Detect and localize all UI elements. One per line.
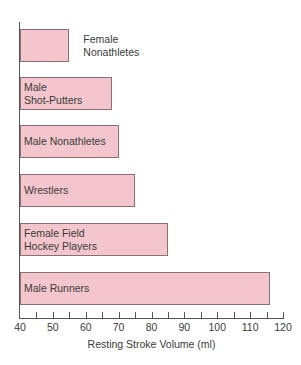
x-tick-label: 50 [41, 321, 65, 333]
x-tick [184, 312, 185, 318]
stroke-volume-bar-chart: Female NonathletesMale Shot-PuttersMale … [0, 0, 301, 365]
x-tick-label: 70 [107, 321, 131, 333]
x-axis-line [19, 318, 284, 319]
x-tick-label: 80 [140, 321, 164, 333]
bar-label: Male Runners [24, 282, 89, 295]
x-tick [119, 312, 120, 318]
x-tick-label: 40 [8, 321, 32, 333]
x-tick [86, 312, 87, 318]
x-tick [53, 312, 54, 318]
x-tick [69, 312, 70, 318]
x-tick [168, 312, 169, 318]
x-tick-label: 100 [205, 321, 229, 333]
x-tick [102, 312, 103, 318]
x-tick [135, 312, 136, 318]
x-tick-label: 90 [172, 321, 196, 333]
x-tick [283, 312, 284, 318]
x-tick-label: 120 [271, 321, 295, 333]
bar-label: Male Nonathletes [24, 135, 106, 148]
bar [20, 29, 69, 62]
bar-label: Male Shot-Putters [24, 81, 82, 107]
x-axis-label: Resting Stroke Volume (ml) [20, 338, 283, 350]
x-tick-label: 60 [74, 321, 98, 333]
x-tick [152, 312, 153, 318]
x-tick [267, 312, 268, 318]
x-tick [217, 312, 218, 318]
x-tick-label: 110 [238, 321, 262, 333]
bar-label: Female Nonathletes [83, 33, 139, 59]
x-tick [234, 312, 235, 318]
bar-label: Wrestlers [24, 184, 68, 197]
x-tick [201, 312, 202, 318]
x-tick [36, 312, 37, 318]
bar-label: Female Field Hockey Players [24, 227, 97, 253]
x-tick [250, 312, 251, 318]
